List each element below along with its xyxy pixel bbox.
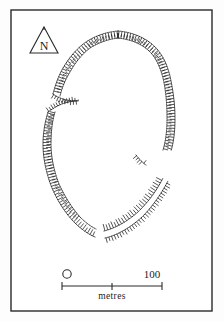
north-arrow-label: N [40, 39, 49, 53]
hachure-tick [166, 137, 170, 138]
hachure-tick [170, 134, 174, 135]
hachure-tick [43, 137, 50, 138]
hachure-tick [48, 156, 52, 157]
hachure-tick [72, 97, 73, 102]
site-plan-figure: N 0 100 metres [0, 0, 224, 322]
hachure-tick [168, 131, 174, 132]
scale-end-label: 100 [144, 268, 161, 280]
figure-frame [11, 10, 212, 311]
hachure-tick [68, 100, 69, 103]
plan-drawing: N 0 100 metres [0, 0, 224, 322]
hachure-tick [169, 101, 174, 102]
hachure-tick [43, 151, 50, 152]
hachure-tick [165, 91, 169, 92]
scale-units-label: metres [98, 291, 126, 301]
